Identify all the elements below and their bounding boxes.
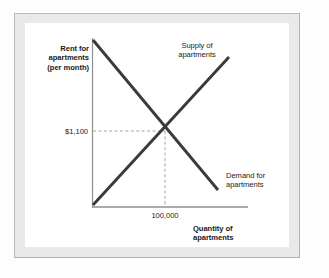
price-tick-label: $1,100 bbox=[30, 127, 88, 136]
x-axis-title: Quantity of apartments bbox=[193, 224, 303, 243]
supply-curve-label-line-2: apartments bbox=[155, 50, 239, 59]
demand-curve-label-line-2: apartments bbox=[226, 180, 326, 189]
y-axis-title-line-2: apartments bbox=[0, 53, 89, 62]
x-axis-title-line-1: Quantity of bbox=[193, 224, 303, 233]
quantity-tick-label: 100,000 bbox=[135, 211, 195, 220]
supply-curve-label-line-1: Supply of bbox=[155, 41, 239, 50]
y-axis-title-line-3: (per month) bbox=[0, 63, 89, 72]
y-axis-title-line-1: Rent for bbox=[0, 44, 89, 53]
supply-demand-figure: Rent for apartments (per month) Supply o… bbox=[0, 0, 329, 278]
x-axis-title-line-2: apartments bbox=[193, 233, 303, 242]
demand-curve-label: Demand for apartments bbox=[226, 171, 326, 190]
y-axis-title: Rent for apartments (per month) bbox=[0, 44, 89, 72]
demand-curve-label-line-1: Demand for bbox=[226, 171, 326, 180]
supply-curve-label: Supply of apartments bbox=[155, 41, 239, 60]
